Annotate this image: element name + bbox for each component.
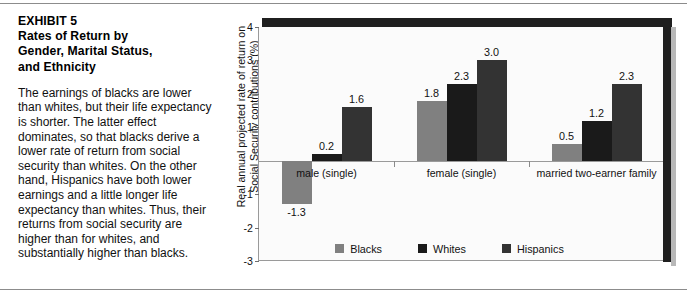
bottom-divider — [0, 289, 687, 290]
frame-top-band — [262, 18, 672, 27]
y-axis-tick-mark — [255, 94, 259, 95]
legend-swatch-icon — [502, 244, 511, 253]
exhibit-figure: EXHIBIT 5 Rates of Return by Gender, Mar… — [0, 0, 687, 300]
exhibit-text-panel: EXHIBIT 5 Rates of Return by Gender, Mar… — [18, 14, 214, 261]
y-axis-tick-label: -3 — [233, 255, 253, 267]
bar-whites-1 — [447, 84, 477, 161]
category-label-0: male (single) — [296, 167, 357, 179]
bar-hispanics-1 — [477, 60, 507, 160]
bar-value-label: 1.2 — [589, 107, 604, 119]
bar-hispanics-0 — [342, 107, 372, 160]
exhibit-title-line-2: Rates of Return by — [18, 29, 214, 44]
y-axis-tick-label: 3 — [233, 54, 253, 66]
top-divider — [0, 3, 687, 4]
legend-item-blacks[interactable]: Blacks — [335, 243, 382, 255]
bar-value-label: 2.3 — [454, 70, 469, 82]
exhibit-title-line-3: Gender, Marital Status, — [18, 44, 214, 59]
y-axis-tick-label: -2 — [233, 222, 253, 234]
y-axis-tick-label: 4 — [233, 21, 253, 33]
bar-blacks-2 — [552, 144, 582, 161]
bar-chart: Real annual projected rate of return on … — [222, 8, 677, 284]
bar-whites-0 — [312, 154, 342, 161]
legend-item-whites[interactable]: Whites — [418, 243, 466, 255]
legend-swatch-icon — [418, 244, 427, 253]
plot-area: 4321-1-2-3-1.30.21.6male (single)1.82.33… — [258, 27, 663, 261]
bar-blacks-1 — [417, 101, 447, 161]
category-label-1: female (single) — [427, 167, 496, 179]
y-axis-tick-label: -1 — [233, 188, 253, 200]
legend-label: Whites — [433, 243, 466, 255]
bar-value-label: 3.0 — [484, 46, 499, 58]
legend-label: Hispanics — [517, 243, 564, 255]
category-label-2: married two-earner family — [536, 167, 656, 179]
y-axis-tick-label: 1 — [233, 121, 253, 133]
category-separator-tick — [529, 161, 530, 167]
bar-whites-2 — [582, 121, 612, 161]
bar-value-label: 1.6 — [349, 93, 364, 105]
y-axis-tick-mark — [255, 261, 259, 262]
exhibit-title: EXHIBIT 5 Rates of Return by Gender, Mar… — [18, 14, 214, 75]
y-axis-tick-mark — [255, 228, 259, 229]
y-axis-tick-mark — [255, 60, 259, 61]
legend-label: Blacks — [350, 243, 382, 255]
plot-frame: 4321-1-2-3-1.30.21.6male (single)1.82.33… — [258, 18, 672, 266]
exhibit-body-text: The earnings of blacks are lower than wh… — [18, 86, 214, 261]
exhibit-title-line-1: EXHIBIT 5 — [18, 14, 214, 29]
bar-value-label: 0.2 — [319, 140, 334, 152]
bar-value-label: 0.5 — [559, 130, 574, 142]
category-separator-tick — [394, 161, 395, 167]
bar-hispanics-2 — [612, 84, 642, 161]
frame-right-shadow — [671, 27, 676, 266]
chart-legend: BlacksWhitesHispanics — [222, 243, 677, 255]
legend-swatch-icon — [335, 244, 344, 253]
zero-baseline — [259, 161, 663, 162]
y-axis-tick-label: 2 — [233, 88, 253, 100]
y-axis-tick-mark — [255, 127, 259, 128]
bar-value-label: 2.3 — [619, 70, 634, 82]
bar-value-label: -1.3 — [287, 206, 306, 218]
legend-item-hispanics[interactable]: Hispanics — [502, 243, 564, 255]
exhibit-title-line-4: and Ethnicity — [18, 60, 214, 75]
y-axis-tick-mark — [255, 27, 259, 28]
bar-value-label: 1.8 — [424, 87, 439, 99]
y-axis-tick-mark — [255, 194, 259, 195]
